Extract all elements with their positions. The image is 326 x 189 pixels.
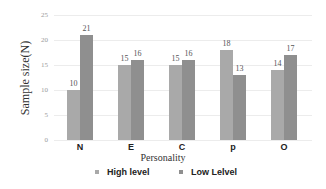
bar-low-O [284, 55, 297, 140]
x-tick-category: O [274, 142, 294, 152]
legend-swatch-high-level [95, 170, 99, 174]
bar-low-p [233, 75, 246, 140]
x-axis-label: Personality [0, 152, 326, 163]
y-axis-label: Sample size(N) [18, 41, 33, 115]
y-tick: 0 [34, 136, 48, 144]
bar-value-label: 16 [128, 49, 148, 58]
bar-low-E [131, 60, 144, 140]
bar-chart: Sample size(N) 0 5 10 15 20 25 1021N1516… [0, 0, 326, 189]
bar-low-N [80, 35, 93, 140]
legend-swatch-low-level [179, 170, 183, 174]
x-tick-category: N [70, 142, 90, 152]
y-tick: 5 [34, 111, 48, 119]
legend: High level Low Lelvel [0, 167, 326, 179]
legend-item-low-level: Low Lelvel [179, 167, 237, 177]
legend-label-low-level: Low Lelvel [191, 167, 237, 177]
bar-value-label: 16 [179, 49, 199, 58]
bar-value-label: 21 [77, 24, 97, 33]
bar-high-E [118, 65, 131, 140]
x-tick-category: C [172, 142, 192, 152]
bar-value-label: 13 [230, 64, 250, 73]
x-tick-category: E [121, 142, 141, 152]
y-tick: 25 [34, 11, 48, 19]
legend-label-high-level: High level [107, 167, 150, 177]
bar-high-O [271, 70, 284, 140]
bar-high-N [67, 90, 80, 140]
bar-value-label: 17 [281, 44, 301, 53]
y-tick: 15 [34, 61, 48, 69]
x-tick-category: p [223, 142, 243, 152]
gridline [54, 140, 312, 141]
bar-value-label: 18 [217, 39, 237, 48]
y-tick: 10 [34, 86, 48, 94]
gridline [54, 15, 312, 16]
bar-low-C [182, 60, 195, 140]
legend-item-high-level: High level [95, 167, 150, 177]
y-tick: 20 [34, 36, 48, 44]
bar-high-C [169, 65, 182, 140]
